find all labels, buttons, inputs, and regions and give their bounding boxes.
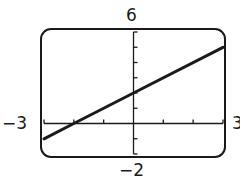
x-min-label: −3 (2, 115, 27, 132)
x-max-label: 3 (232, 115, 240, 132)
plot-area (0, 0, 240, 186)
y-max-label: 6 (126, 7, 137, 24)
y-min-label: −2 (119, 162, 144, 179)
